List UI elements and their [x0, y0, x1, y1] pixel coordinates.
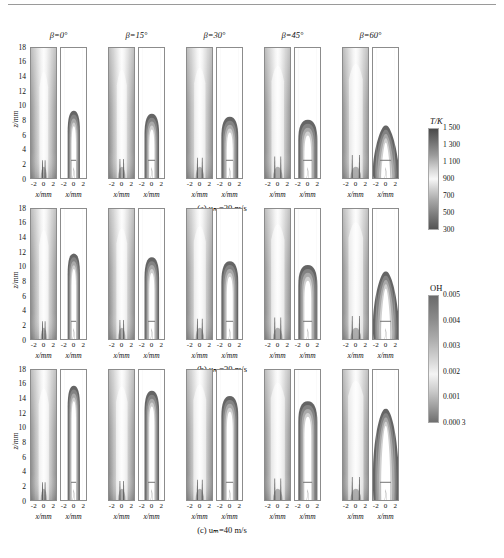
top-rule	[8, 4, 496, 5]
column-header-beta-15: β=15°	[108, 30, 165, 40]
y-axis-tick: 0	[12, 498, 26, 505]
x-axis-label: x/mm	[183, 190, 216, 199]
y-axis-tick: 6	[12, 132, 26, 139]
column-header-beta-60: β=60°	[342, 30, 399, 40]
oh-field-panel-beta60-row2	[372, 208, 399, 340]
x-axis-tick: 2	[311, 181, 323, 188]
y-axis-tick: 16	[12, 58, 26, 65]
colorbar-tick-temperature: 1 300	[443, 141, 460, 149]
x-axis-tick: 2	[155, 181, 167, 188]
temperature-field-panel-beta30-row3	[186, 369, 213, 501]
y-axis-tick: 10	[12, 424, 26, 431]
x-axis-label: x/mm	[183, 512, 216, 521]
temperature-field-panel-beta45-row3	[264, 369, 291, 501]
y-axis-tick: 18	[12, 205, 26, 212]
colorbar-tick-oh-mass-fraction: 0.005	[443, 291, 460, 299]
y-axis-tick: 14	[12, 234, 26, 241]
x-axis-tick: 2	[233, 503, 245, 510]
y-axis-tick: 12	[12, 249, 26, 256]
x-axis-tick: 2	[389, 503, 401, 510]
colorbar-tick-temperature: 300	[443, 226, 454, 234]
x-axis-tick: 2	[77, 181, 89, 188]
x-axis-label: x/mm	[135, 190, 168, 199]
colorbar-tick-oh-mass-fraction: 0.000 3	[443, 419, 466, 427]
oh-field-panel-beta45-row1	[294, 47, 321, 179]
colorbar-tick-oh-mass-fraction: 0.004	[443, 317, 460, 325]
temperature-field-panel-beta60-row1	[342, 47, 369, 179]
x-axis-label: x/mm	[291, 190, 324, 199]
y-axis-tick: 14	[12, 395, 26, 402]
x-axis-label: x/mm	[369, 351, 402, 360]
x-axis-label: x/mm	[369, 512, 402, 521]
colorbar-tick-oh-mass-fraction: 0.002	[443, 368, 460, 376]
x-axis-label: x/mm	[213, 512, 246, 521]
colorbar-tick-temperature: 500	[443, 209, 454, 217]
x-axis-label: x/mm	[213, 351, 246, 360]
x-axis-label: x/mm	[291, 351, 324, 360]
temperature-field-panel-beta0-row2	[30, 208, 57, 340]
colorbar-tick-temperature: 1 100	[443, 158, 460, 166]
temperature-field-panel-beta15-row3	[108, 369, 135, 501]
y-axis-tick: 18	[12, 44, 26, 51]
x-axis-label: x/mm	[369, 190, 402, 199]
oh-field-panel-beta60-row1	[372, 47, 399, 179]
colorbar-title-temperature: T/K	[430, 116, 443, 126]
y-axis-tick: 16	[12, 219, 26, 226]
figure-canvas: z/mm181614121086420β=0°-202x/mm-202x/mmβ…	[0, 0, 504, 558]
temperature-field-panel-beta15-row1	[108, 47, 135, 179]
x-axis-label: x/mm	[105, 512, 138, 521]
y-axis-tick: 12	[12, 410, 26, 417]
x-axis-label: x/mm	[261, 512, 294, 521]
colorbar-title-oh-mass-fraction: OH	[430, 283, 442, 293]
oh-field-panel-beta15-row3	[138, 369, 165, 501]
row-caption-3: (c) uₘ=40 m/s	[0, 525, 474, 535]
oh-field-panel-beta0-row2	[60, 208, 87, 340]
x-axis-tick: 2	[155, 503, 167, 510]
oh-field-panel-beta45-row3	[294, 369, 321, 501]
y-axis-tick: 8	[12, 278, 26, 285]
oh-field-panel-beta30-row3	[216, 369, 243, 501]
y-axis-tick: 0	[12, 337, 26, 344]
x-axis-label: x/mm	[339, 512, 372, 521]
x-axis-label: x/mm	[135, 512, 168, 521]
y-axis-tick: 6	[12, 293, 26, 300]
temperature-field-panel-beta30-row2	[186, 208, 213, 340]
x-axis-label: x/mm	[57, 351, 90, 360]
x-axis-label: x/mm	[339, 190, 372, 199]
x-axis-label: x/mm	[27, 351, 60, 360]
oh-field-panel-beta0-row3	[60, 369, 87, 501]
y-axis-tick: 10	[12, 102, 26, 109]
y-axis-tick: 8	[12, 117, 26, 124]
x-axis-label: x/mm	[261, 190, 294, 199]
oh-field-panel-beta30-row1	[216, 47, 243, 179]
oh-field-panel-beta45-row2	[294, 208, 321, 340]
y-axis-tick: 2	[12, 161, 26, 168]
y-axis-tick: 4	[12, 307, 26, 314]
colorbar-tick-oh-mass-fraction: 0.001	[443, 393, 460, 401]
y-axis-tick: 2	[12, 483, 26, 490]
x-axis-label: x/mm	[105, 190, 138, 199]
y-axis-tick: 10	[12, 263, 26, 270]
temperature-field-panel-beta60-row3	[342, 369, 369, 501]
temperature-field-panel-beta30-row1	[186, 47, 213, 179]
y-axis-tick: 14	[12, 73, 26, 80]
x-axis-label: x/mm	[57, 190, 90, 199]
temperature-field-panel-beta0-row1	[30, 47, 57, 179]
column-header-beta-0: β=0°	[30, 30, 87, 40]
y-axis-tick: 16	[12, 380, 26, 387]
temperature-field-panel-beta45-row2	[264, 208, 291, 340]
y-axis-tick: 8	[12, 439, 26, 446]
x-axis-tick: 2	[155, 342, 167, 349]
temperature-field-panel-beta0-row3	[30, 369, 57, 501]
column-header-beta-30: β=30°	[186, 30, 243, 40]
x-axis-tick: 2	[77, 503, 89, 510]
y-axis-tick: 4	[12, 146, 26, 153]
y-axis-tick: 6	[12, 454, 26, 461]
x-axis-label: x/mm	[27, 190, 60, 199]
temperature-field-panel-beta15-row2	[108, 208, 135, 340]
oh-field-panel-beta60-row3	[372, 369, 399, 501]
y-axis-tick: 12	[12, 88, 26, 95]
x-axis-label: x/mm	[183, 351, 216, 360]
x-axis-label: x/mm	[261, 351, 294, 360]
column-header-beta-45: β=45°	[264, 30, 321, 40]
